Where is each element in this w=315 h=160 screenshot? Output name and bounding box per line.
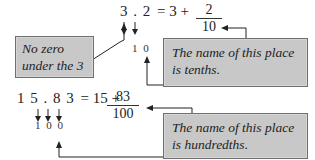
place-digit: 0 [143, 42, 149, 54]
note-line: The name of this place [172, 119, 299, 136]
decimal-point: . [44, 90, 48, 106]
note-line: under the 3 [22, 57, 87, 74]
equation-text: = 3 + [157, 3, 189, 19]
digit-ones: 3 [120, 3, 128, 19]
place-digit: 0 [58, 119, 64, 131]
note-tenths: The name of this place is tenths. [163, 38, 308, 87]
note-line: is hundredths. [172, 136, 299, 153]
place-value-digits-1: 1 0 [132, 42, 149, 54]
digit-tenths: 2 [143, 3, 151, 19]
place-value-digits-2: 1 0 0 [35, 119, 63, 131]
digit-hundredths: 3 [66, 90, 74, 106]
place-digit: 1 [35, 119, 41, 131]
denominator: 10 [196, 20, 222, 34]
note-line: is tenths. [172, 61, 299, 78]
place-digit: 1 [132, 42, 138, 54]
place-digit: 0 [46, 119, 52, 131]
denominator: 100 [107, 107, 139, 121]
note-line: The name of this place [172, 44, 299, 61]
digit-tens: 1 [17, 90, 25, 106]
numerator: 2 [196, 3, 222, 17]
decimal-point: . [133, 3, 137, 19]
digit-tenths: 8 [53, 90, 61, 106]
decimal-number-3-2: 3 . 2 = 3 + [120, 3, 189, 20]
note-no-zero: No zero under the 3 [15, 36, 94, 78]
fraction-83-over-100: 83 100 [107, 90, 139, 121]
note-hundredths: The name of this place is hundredths. [163, 113, 308, 159]
note-line: No zero [22, 40, 87, 57]
numerator: 83 [107, 90, 139, 104]
decimal-number-15-83: 1 5 . 8 3 = 15 + [17, 90, 120, 107]
fraction-2-over-10: 2 10 [196, 3, 222, 34]
digit-ones: 5 [30, 90, 38, 106]
